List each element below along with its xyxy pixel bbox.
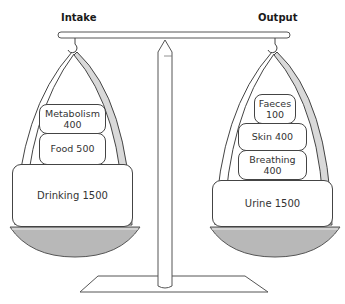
- breathing-box: Breathing400: [238, 150, 307, 180]
- faeces-box: Faeces100: [254, 94, 296, 124]
- scale-base: [80, 276, 268, 292]
- output-title: Output: [258, 12, 297, 23]
- metabolism-label: Metabolism: [45, 108, 100, 119]
- food-box: Food 500: [39, 133, 106, 165]
- breathing-label: Breathing: [249, 154, 295, 165]
- skin-box: Skin 400: [238, 123, 307, 151]
- left-pan: [10, 227, 140, 257]
- scale-beam: [58, 32, 290, 38]
- faeces-value: 100: [259, 109, 291, 120]
- faeces-label: Faeces: [259, 98, 291, 109]
- urine-box: Urine 1500: [212, 180, 333, 227]
- intake-title: Intake: [61, 12, 97, 23]
- breathing-value: 400: [249, 165, 295, 176]
- metabolism-box: Metabolism400: [39, 104, 106, 134]
- scale-post: [158, 40, 172, 288]
- right-pan: [210, 227, 340, 257]
- drinking-box: Drinking 1500: [12, 164, 133, 227]
- metabolism-value: 400: [45, 119, 100, 130]
